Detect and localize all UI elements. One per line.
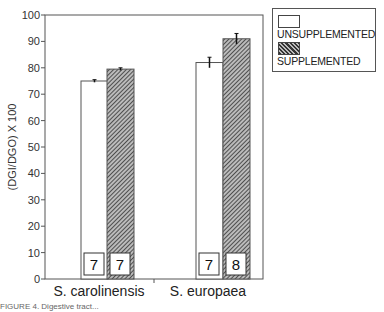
y-tick-label: 60 <box>28 115 40 127</box>
y-tick-label: 90 <box>28 35 40 47</box>
y-tick-label: 0 <box>34 273 40 285</box>
bar <box>81 81 108 279</box>
bar <box>107 69 134 279</box>
x-tick-label: S. carolinensis <box>53 283 144 299</box>
legend-label-supplemented: SUPPLEMENTED <box>277 55 360 67</box>
bars: 7778 <box>81 33 250 279</box>
legend-swatch-unsupplemented <box>278 15 300 28</box>
y-tick-label: 20 <box>28 220 40 232</box>
y-tick-label: 100 <box>22 9 40 21</box>
x-tick-label: S. europaea <box>170 283 246 299</box>
y-tick-label: 50 <box>28 141 40 153</box>
figure-caption: FIGURE 4. Digestive tract... <box>0 302 99 311</box>
legend-label-unsupplemented: UNSUPPLEMENTED <box>277 28 375 40</box>
sample-size-label: 8 <box>232 256 240 273</box>
legend-swatch-supplemented <box>278 42 300 55</box>
y-tick-label: 30 <box>28 194 40 206</box>
y-tick-label: 40 <box>28 167 40 179</box>
legend: UNSUPPLEMENTED SUPPLEMENTED <box>272 8 376 72</box>
y-tick-label: 70 <box>28 88 40 100</box>
sample-size-label: 7 <box>205 256 213 273</box>
y-axis-label: (DGI/DGO) X 100 <box>6 104 18 191</box>
sample-size-label: 7 <box>116 256 124 273</box>
sample-size-label: 7 <box>90 256 98 273</box>
bar <box>223 39 250 279</box>
y-tick-label: 10 <box>28 247 40 259</box>
bar <box>196 63 223 279</box>
y-tick-label: 80 <box>28 62 40 74</box>
